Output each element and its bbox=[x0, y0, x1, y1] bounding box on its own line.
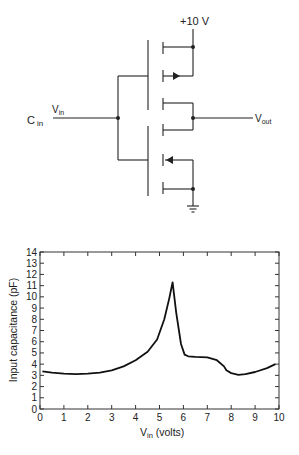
y-tick-label: 10 bbox=[26, 291, 38, 302]
y-tick-label: 6 bbox=[31, 336, 37, 347]
cmos-inverter-circuit bbox=[53, 29, 253, 212]
y-tick-label: 2 bbox=[31, 381, 37, 392]
y-tick-label: 4 bbox=[31, 359, 37, 370]
x-tick-label: 10 bbox=[273, 412, 285, 423]
x-tick-label: 0 bbox=[37, 412, 43, 423]
y-tick-label: 0 bbox=[31, 404, 37, 415]
y-axis-ticks: 01234567891011121314 bbox=[26, 247, 279, 415]
vin-label: Vin bbox=[52, 104, 64, 116]
pmos-body-arrow-icon bbox=[173, 72, 180, 80]
x-tick-label: 3 bbox=[109, 412, 115, 423]
y-axis-label: Input capacitance (pF) bbox=[7, 278, 19, 382]
y-tick-label: 7 bbox=[31, 325, 37, 336]
x-tick-label: 8 bbox=[228, 412, 234, 423]
x-tick-label: 5 bbox=[157, 412, 163, 423]
x-tick-label: 4 bbox=[133, 412, 139, 423]
cin-label: Cin bbox=[27, 114, 43, 128]
ground-icon bbox=[187, 206, 199, 212]
supply-label: +10 V bbox=[180, 15, 210, 27]
y-tick-label: 12 bbox=[26, 269, 38, 280]
x-tick-label: 9 bbox=[252, 412, 258, 423]
gnd-node-dot bbox=[191, 187, 195, 191]
y-tick-label: 11 bbox=[27, 280, 38, 291]
y-tick-label: 5 bbox=[31, 347, 37, 358]
x-axis-label: Vin (volts) bbox=[140, 426, 184, 440]
y-tick-label: 3 bbox=[31, 370, 37, 381]
y-tick-label: 14 bbox=[26, 247, 38, 258]
vdd-node-dot bbox=[191, 45, 195, 49]
y-tick-label: 1 bbox=[31, 392, 37, 403]
vout-label: Vout bbox=[255, 113, 271, 125]
y-tick-label: 9 bbox=[31, 303, 37, 314]
x-tick-label: 1 bbox=[61, 412, 67, 423]
x-tick-label: 7 bbox=[205, 412, 211, 423]
x-tick-label: 6 bbox=[181, 412, 187, 423]
nmos-body-arrow-icon bbox=[166, 156, 173, 164]
y-tick-label: 13 bbox=[26, 258, 38, 269]
figure-canvas: +10 V Cin Vin Vout 012345678910 01234567… bbox=[0, 0, 299, 455]
x-axis-ticks: 012345678910 bbox=[37, 252, 285, 423]
capacitance-chart: 012345678910 01234567891011121314 Vin (v… bbox=[7, 247, 285, 441]
capacitance-curve bbox=[42, 282, 275, 375]
x-tick-label: 2 bbox=[85, 412, 91, 423]
y-tick-label: 8 bbox=[31, 314, 37, 325]
